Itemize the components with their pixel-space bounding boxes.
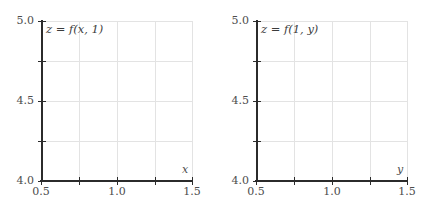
x-axis-tick (117, 177, 118, 185)
y-axis-tick (38, 181, 46, 182)
plot-annotation-label: z = f(1, y) (261, 22, 318, 36)
x-axis-tick-label: 1.0 (323, 186, 341, 198)
figure-canvas: 0.5 1.0 1.5 5.0 4.5 4.0 x z = f(x, 1) (0, 0, 430, 206)
x-axis-tick-label: 1.5 (183, 186, 201, 198)
x-axis-tick (155, 177, 156, 185)
y-axis-tick-label: 4.5 (232, 95, 250, 107)
x-axis-tick-label: 1.5 (398, 186, 416, 198)
gridline-horizontal (256, 61, 408, 62)
y-axis-tick (38, 101, 46, 102)
plot-area-left (41, 21, 193, 181)
y-axis-tick (253, 101, 261, 102)
gridline-horizontal (41, 101, 193, 102)
y-axis-tick (253, 141, 261, 142)
y-axis-tick (38, 61, 46, 62)
x-axis-tick (192, 177, 193, 185)
plot-area-right (256, 21, 408, 181)
gridline-horizontal (41, 61, 193, 62)
plot-panel-right: 0.5 1.0 1.5 5.0 4.5 4.0 y z = f(1, y) (215, 0, 430, 206)
y-axis-tick-label: 4.0 (17, 175, 35, 187)
x-axis-tick (79, 177, 80, 185)
x-axis-tick-label: 0.5 (32, 186, 50, 198)
x-axis-tick-label: 1.0 (108, 186, 126, 198)
y-axis-tick-label: 5.0 (232, 15, 250, 27)
y-axis-tick (253, 61, 261, 62)
x-axis-name: y (397, 164, 403, 176)
y-axis-tick (253, 181, 261, 182)
plot-panel-left: 0.5 1.0 1.5 5.0 4.5 4.0 x z = f(x, 1) (0, 0, 215, 206)
y-axis-tick (38, 21, 46, 22)
gridline-horizontal (256, 141, 408, 142)
y-axis-tick-label: 4.0 (232, 175, 250, 187)
y-axis-tick (253, 21, 261, 22)
x-axis-tick (407, 177, 408, 185)
y-axis-tick-label: 5.0 (17, 15, 35, 27)
x-axis-tick-label: 0.5 (247, 186, 265, 198)
x-axis-tick (294, 177, 295, 185)
y-axis-tick (38, 141, 46, 142)
gridline-horizontal (256, 101, 408, 102)
gridline-horizontal (41, 141, 193, 142)
plot-annotation-label: z = f(x, 1) (46, 22, 103, 36)
y-axis-tick-label: 4.5 (17, 95, 35, 107)
x-axis-name: x (182, 164, 188, 176)
x-axis-tick (332, 177, 333, 185)
x-axis-tick (370, 177, 371, 185)
